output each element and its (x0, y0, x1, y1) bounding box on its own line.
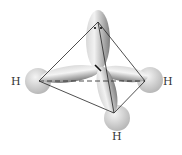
lone-pair-dot (94, 27, 96, 29)
lone-pair-dot (100, 27, 102, 29)
atom-label-h-right: H (163, 75, 173, 88)
tetrahedral-orbital-diagram: H H H (0, 0, 182, 155)
atom-label-h-bottom: H (112, 130, 122, 143)
atom-label-h-left: H (11, 75, 21, 88)
orbital-lobe-top (86, 10, 110, 70)
